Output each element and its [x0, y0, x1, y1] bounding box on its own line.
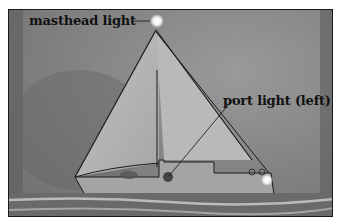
stern-light-glow — [261, 174, 273, 186]
masthead-light-label: masthead light — [29, 13, 136, 28]
cabin-window — [120, 171, 138, 179]
masthead-light-glow — [150, 14, 164, 28]
right-edge-shadow — [320, 10, 333, 217]
illustration-frame: masthead light port light (left) — [8, 9, 333, 217]
port-light-label: port light (left) — [223, 93, 331, 108]
sailboat-illustration — [9, 10, 333, 217]
